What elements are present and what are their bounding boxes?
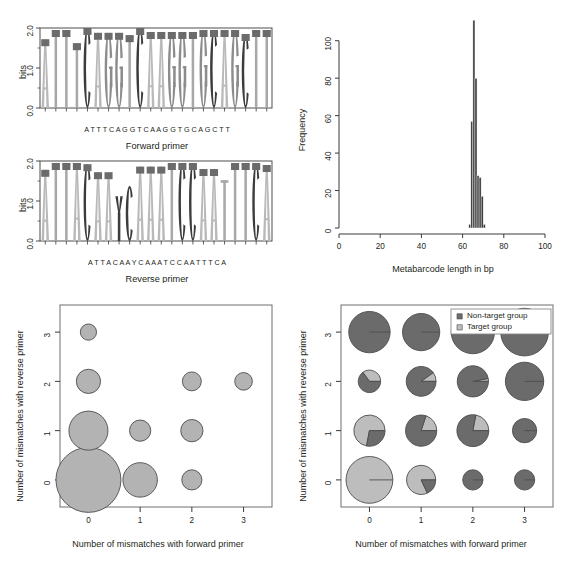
svg-text:3: 3 (324, 332, 333, 337)
pie-xlabel: Number of mismatches with forward primer (355, 539, 527, 549)
pie-marker (406, 366, 436, 396)
bubble-marker (69, 411, 108, 450)
histogram-panel: 020406080100020406080100 Frequency Metab… (283, 0, 565, 283)
svg-text:0: 0 (324, 228, 333, 233)
legend-swatch (457, 314, 462, 319)
svg-text:1: 1 (43, 431, 52, 436)
pie-marker (457, 415, 489, 447)
sequence-logo-panel: 0.01.02.0 bits A T T T C A G G T C A A G… (0, 0, 283, 283)
svg-text:2.0: 2.0 (26, 158, 35, 170)
svg-text:80: 80 (499, 242, 509, 251)
pie-marker (512, 418, 536, 442)
svg-text:0.0: 0.0 (26, 238, 35, 250)
sequence-logo-svg: 0.01.02.0 bits A T T T C A G G T C A A G… (0, 0, 283, 283)
histogram-plot-area: 020406080100020406080100 (324, 20, 552, 251)
svg-text:100: 100 (538, 242, 552, 251)
forward-logo-ylabel: bits (18, 65, 28, 80)
svg-text:0: 0 (324, 480, 333, 485)
svg-text:0: 0 (367, 516, 372, 525)
bubble-plot-svg: 01230123 Number of mismatches with rever… (0, 283, 283, 565)
forward-logo-sequence-text: A T T T C A G G T C A A G G T G C A G C … (84, 125, 230, 134)
pie-marker (349, 311, 390, 352)
legend-label: Target group (467, 322, 512, 331)
reverse-logo-ylabel: bits (18, 198, 28, 213)
svg-text:60: 60 (324, 114, 333, 124)
legend-label: Non-target group (467, 311, 528, 320)
histogram-xlabel: Metabarcode length in bp (392, 264, 494, 274)
svg-text:60: 60 (458, 242, 468, 251)
reverse-primer-logo: 0.01.02.0 (26, 158, 272, 250)
svg-text:20: 20 (324, 189, 333, 199)
pie-marker (346, 456, 393, 503)
pie-marker (463, 470, 483, 490)
bubble-marker (76, 369, 100, 393)
svg-text:40: 40 (324, 151, 333, 161)
bubble-marker (123, 463, 158, 498)
svg-text:40: 40 (417, 242, 427, 251)
forward-primer-caption: Forward primer (126, 141, 188, 151)
pie-marker (407, 465, 436, 494)
svg-text:20: 20 (376, 242, 386, 251)
bubble-marker (182, 470, 202, 490)
svg-text:0.0: 0.0 (26, 105, 35, 117)
bubble-marker (182, 372, 201, 391)
svg-text:3: 3 (522, 516, 527, 525)
svg-text:1: 1 (324, 431, 333, 436)
legend-swatch (457, 325, 462, 330)
svg-text:80: 80 (324, 76, 333, 86)
pie-marker (457, 366, 488, 397)
svg-text:0: 0 (337, 242, 342, 251)
svg-text:0: 0 (86, 516, 91, 525)
pie-marker (514, 470, 534, 490)
svg-text:1: 1 (419, 516, 424, 525)
svg-text:3: 3 (43, 332, 52, 337)
svg-text:1: 1 (138, 516, 143, 525)
pie-marker (354, 415, 385, 446)
svg-text:2: 2 (43, 382, 52, 387)
reverse-primer-caption: Reverse primer (126, 274, 189, 283)
svg-text:3: 3 (241, 516, 246, 525)
reverse-logo-sequence-text: A T T A C A A Y C A A A T C C A A T T T … (88, 258, 226, 267)
bubble-plot-panel: 01230123 Number of mismatches with rever… (0, 283, 283, 565)
pie-plot-svg: 01230123 Non-target groupTarget group Nu… (283, 283, 565, 565)
pie-plot-legend[interactable]: Non-target groupTarget group (451, 309, 551, 334)
svg-text:2: 2 (324, 382, 333, 387)
bubble-marker (181, 419, 203, 441)
pie-plot-area: 01230123 (324, 305, 553, 525)
svg-text:2: 2 (190, 516, 195, 525)
svg-text:2.0: 2.0 (26, 25, 35, 37)
svg-text:100: 100 (324, 36, 333, 50)
bubble-marker (235, 373, 253, 391)
svg-text:0: 0 (43, 480, 52, 485)
pie-marker (358, 370, 380, 392)
histogram-ylabel: Frequency (297, 108, 307, 151)
bubble-marker (80, 324, 96, 340)
pie-marker (406, 415, 437, 446)
pie-marker (403, 313, 440, 350)
bubble-plot-area: 01230123 (43, 305, 272, 525)
bubble-ylabel: Number of mismatches with reverse primer (15, 330, 25, 502)
pie-plot-panel: 01230123 Non-target groupTarget group Nu… (283, 283, 565, 565)
bubble-marker (56, 447, 121, 512)
pie-ylabel: Number of mismatches with reverse primer (298, 330, 308, 502)
histogram-svg: 020406080100020406080100 Frequency Metab… (283, 0, 565, 283)
svg-text:2: 2 (471, 516, 476, 525)
pie-marker (505, 362, 543, 400)
bubble-marker (130, 420, 151, 441)
forward-primer-logo: 0.01.02.0 (26, 25, 272, 117)
figure-root: 0.01.02.0 bits A T T T C A G G T C A A G… (0, 0, 565, 565)
bubble-xlabel: Number of mismatches with forward primer (72, 539, 244, 549)
